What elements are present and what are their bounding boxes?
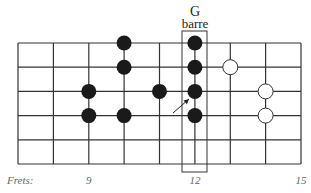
- filled-note-dot: [81, 84, 96, 99]
- filled-note-dot: [117, 36, 132, 51]
- frets-prefix-label: Frets:: [6, 174, 33, 186]
- fret-number-label: 12: [189, 174, 201, 186]
- arrow-icon: [173, 99, 189, 113]
- fretboard-grid: [18, 43, 301, 164]
- filled-note-dot: [152, 84, 167, 99]
- chord-type-label: barre: [182, 16, 209, 31]
- filled-note-dot: [187, 84, 202, 99]
- filled-note-dot: [117, 60, 132, 75]
- open-note-dot: [258, 84, 273, 99]
- fret-number-label: 9: [86, 174, 92, 186]
- fret-number-label: 15: [296, 174, 308, 186]
- filled-note-dot: [81, 108, 96, 123]
- filled-note-dot: [187, 108, 202, 123]
- fretboard-diagram: G barre Frets: 91215: [0, 0, 311, 193]
- filled-note-dot: [187, 60, 202, 75]
- open-note-dot: [223, 60, 238, 75]
- fret-number-labels: 91215: [86, 174, 307, 186]
- filled-note-dot: [187, 36, 202, 51]
- filled-note-dot: [117, 108, 132, 123]
- open-note-dot: [258, 108, 273, 123]
